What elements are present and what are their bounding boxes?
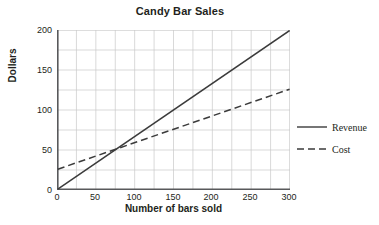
y-tick-label-50: 50 bbox=[18, 145, 52, 155]
legend-item-cost: Cost bbox=[297, 138, 377, 160]
x-tick-label-300: 300 bbox=[272, 192, 306, 202]
y-tick-label-100: 100 bbox=[18, 105, 52, 115]
legend-label-cost: Cost bbox=[327, 144, 350, 155]
chart-figure: Candy Bar Sales Dollars Number of bars s… bbox=[0, 0, 379, 225]
chart-title: Candy Bar Sales bbox=[60, 5, 300, 17]
x-tick-label-0: 0 bbox=[40, 192, 74, 202]
x-tick-label-250: 250 bbox=[233, 192, 267, 202]
y-axis-label: Dollars bbox=[7, 16, 18, 116]
legend-swatch-dashed-line-icon bbox=[297, 144, 327, 154]
plot-svg bbox=[57, 30, 290, 190]
x-tick-label-200: 200 bbox=[194, 192, 228, 202]
y-tick-label-150: 150 bbox=[18, 65, 52, 75]
legend-item-revenue: Revenue bbox=[297, 116, 377, 138]
x-axis-label: Number of bars sold bbox=[57, 203, 290, 214]
legend-swatch-solid-line-icon bbox=[297, 122, 327, 132]
x-tick-label-100: 100 bbox=[117, 192, 151, 202]
chart-legend: Revenue Cost bbox=[297, 116, 377, 160]
x-tick-label-150: 150 bbox=[156, 192, 190, 202]
x-tick-label-50: 50 bbox=[78, 192, 112, 202]
plot-area bbox=[57, 30, 290, 190]
legend-label-revenue: Revenue bbox=[327, 122, 367, 133]
y-tick-label-200: 200 bbox=[18, 25, 52, 35]
